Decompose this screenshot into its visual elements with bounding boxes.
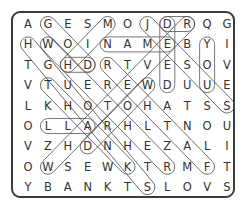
letter-cell[interactable]: Z [40, 138, 56, 154]
letter-cell[interactable]: O [20, 118, 36, 134]
letter-cell[interactable]: S [219, 179, 235, 195]
letter-cell[interactable]: M [100, 16, 116, 32]
letter-cell[interactable]: S [139, 179, 155, 195]
letter-cell[interactable]: S [199, 98, 215, 114]
letter-cell[interactable]: A [60, 179, 76, 195]
letter-cell[interactable]: H [60, 138, 76, 154]
letter-cell[interactable]: G [219, 16, 235, 32]
letter-cell[interactable]: A [20, 16, 36, 32]
letter-cell[interactable]: N [80, 179, 96, 195]
letter-cell[interactable]: T [139, 159, 155, 175]
letter-cell[interactable]: U [219, 118, 235, 134]
letter-cell[interactable]: T [120, 179, 136, 195]
letter-cell[interactable]: M [139, 36, 155, 52]
letter-cell[interactable]: Y [20, 179, 36, 195]
letter-cell[interactable]: A [159, 98, 175, 114]
letter-cell[interactable]: G [40, 16, 56, 32]
letter-cell[interactable]: E [219, 77, 235, 93]
letter-cell[interactable]: V [199, 179, 215, 195]
letter-cell[interactable]: I [219, 138, 235, 154]
letter-cell[interactable]: R [100, 77, 116, 93]
letter-cell[interactable]: V [20, 138, 36, 154]
letter-cell[interactable]: H [60, 98, 76, 114]
letter-cell[interactable]: H [120, 118, 136, 134]
letter-cell[interactable]: D [159, 16, 175, 32]
letter-cell[interactable]: Z [159, 138, 175, 154]
letter-cell[interactable]: F [199, 159, 215, 175]
letter-cell[interactable]: W [40, 159, 56, 175]
letter-cell[interactable]: W [139, 77, 155, 93]
letter-cell[interactable]: T [100, 98, 116, 114]
letter-cell[interactable]: D [80, 57, 96, 73]
letter-cell[interactable]: R [179, 16, 195, 32]
letter-cell[interactable]: W [40, 36, 56, 52]
letter-cell[interactable]: U [199, 77, 215, 93]
letter-cell[interactable]: M [179, 159, 195, 175]
letter-cell[interactable]: O [80, 98, 96, 114]
letter-cell[interactable]: O [199, 57, 215, 73]
letter-cell[interactable]: W [100, 159, 116, 175]
letter-cell[interactable]: B [179, 36, 195, 52]
letter-cell[interactable]: D [159, 77, 175, 93]
letter-cell[interactable]: T [219, 159, 235, 175]
letter-cell[interactable]: S [80, 16, 96, 32]
letter-cell[interactable]: O [199, 118, 215, 134]
letter-cell[interactable]: O [120, 16, 136, 32]
letter-cell[interactable]: R [159, 159, 175, 175]
letter-cell[interactable]: K [40, 98, 56, 114]
letter-cell[interactable]: L [60, 118, 76, 134]
letter-cell[interactable]: I [219, 36, 235, 52]
letter-cell[interactable]: T [179, 98, 195, 114]
letter-cell[interactable]: N [100, 138, 116, 154]
letter-cell[interactable]: L [40, 118, 56, 134]
letter-cell[interactable]: E [159, 57, 175, 73]
letter-cell[interactable]: H [120, 138, 136, 154]
letter-cell[interactable]: V [219, 57, 235, 73]
letter-cell[interactable]: N [179, 118, 195, 134]
letter-cell[interactable]: V [139, 57, 155, 73]
letter-cell[interactable]: T [20, 57, 36, 73]
letter-cell[interactable]: D [80, 138, 96, 154]
letter-cell[interactable]: R [100, 57, 116, 73]
letter-cell[interactable]: U [60, 77, 76, 93]
letter-cell[interactable]: H [20, 36, 36, 52]
letter-cell[interactable]: E [120, 77, 136, 93]
letter-cell[interactable]: E [60, 16, 76, 32]
letter-cell[interactable]: J [139, 16, 155, 32]
letter-cell[interactable]: E [80, 159, 96, 175]
letter-cell[interactable]: R [100, 118, 116, 134]
letter-cell[interactable]: U [179, 77, 195, 93]
letter-cell[interactable]: S [60, 159, 76, 175]
letter-cell[interactable]: E [80, 77, 96, 93]
letter-cell[interactable]: T [159, 118, 175, 134]
letter-cell[interactable]: T [40, 77, 56, 93]
letter-cell[interactable]: A [80, 118, 96, 134]
letter-cell[interactable]: K [120, 159, 136, 175]
letter-cell[interactable]: E [159, 36, 175, 52]
letter-cell[interactable]: B [40, 179, 56, 195]
letter-cell[interactable]: N [100, 36, 116, 52]
letter-cell[interactable]: L [159, 179, 175, 195]
letter-cell[interactable]: O [120, 98, 136, 114]
letter-cell[interactable]: A [120, 36, 136, 52]
letter-cell[interactable]: S [219, 98, 235, 114]
letter-cell[interactable]: Y [199, 36, 215, 52]
letter-cell[interactable]: T [120, 57, 136, 73]
letter-cell[interactable]: V [20, 77, 36, 93]
letter-cell[interactable]: H [139, 98, 155, 114]
letter-cell[interactable]: K [100, 179, 116, 195]
letter-cell[interactable]: L [20, 98, 36, 114]
letter-cell[interactable]: E [139, 138, 155, 154]
letter-cell[interactable]: H [60, 57, 76, 73]
letter-cell[interactable]: L [139, 118, 155, 134]
letter-cell[interactable]: O [20, 159, 36, 175]
letter-cell[interactable]: Q [199, 16, 215, 32]
letter-cell[interactable]: L [199, 138, 215, 154]
letter-cell[interactable]: A [179, 138, 195, 154]
letter-cell[interactable]: I [80, 36, 96, 52]
letter-cell[interactable]: O [179, 179, 195, 195]
letter-cell[interactable]: O [60, 36, 76, 52]
letter-cell[interactable]: S [179, 57, 195, 73]
letter-cell[interactable]: G [40, 57, 56, 73]
